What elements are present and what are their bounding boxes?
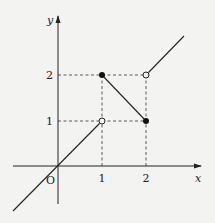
y-tick-2-label: 2 <box>46 69 53 82</box>
filled-point-1-2 <box>99 72 105 78</box>
x-tick-2-label: 2 <box>143 172 150 185</box>
piece-y-equals-x-left <box>13 124 100 212</box>
piecewise-function-graph: y x O 1 2 1 2 <box>0 0 215 223</box>
filled-point-2-1 <box>143 118 149 124</box>
open-point-2-2 <box>143 72 149 78</box>
open-point-1-1 <box>99 118 105 124</box>
piece-descending-segment <box>102 75 146 121</box>
x-axis-label: x <box>195 172 202 185</box>
piece-y-equals-x-right <box>149 36 185 73</box>
x-tick-1-label: 1 <box>99 172 106 185</box>
y-axis-label: y <box>46 14 54 27</box>
origin-label: O <box>46 174 55 187</box>
y-tick-1-label: 1 <box>46 115 53 128</box>
